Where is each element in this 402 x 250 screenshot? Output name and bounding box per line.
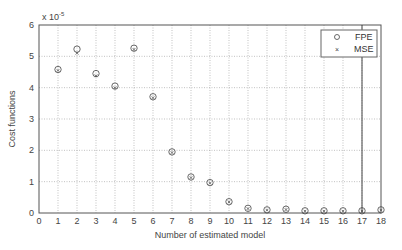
legend: FPE × MSE: [321, 30, 377, 57]
x-axis-title: Number of estimated model: [155, 230, 266, 240]
y-tick-label: 2: [29, 145, 34, 155]
x-tick-label: 15: [319, 216, 329, 226]
data-points: [55, 45, 384, 214]
fpe-point: [169, 149, 175, 155]
fpe-point: [55, 66, 61, 72]
mse-point: [171, 151, 174, 154]
x-tick-label: 12: [262, 216, 272, 226]
y-scale-label: x 10-5: [42, 11, 65, 22]
x-tick-label: 3: [93, 216, 98, 226]
fpe-point: [188, 174, 194, 180]
y-tick-label: 3: [29, 114, 34, 124]
x-tick-label: 4: [112, 216, 117, 226]
x-tick-label: 13: [281, 216, 291, 226]
cost-function-chart: 0123456789101112131415161718 0123456 x 1…: [0, 0, 402, 250]
mse-point: [209, 182, 212, 185]
mse-marker-icon: ×: [335, 46, 339, 53]
legend-fpe-label: FPE: [355, 32, 373, 42]
x-tick-label: 0: [36, 216, 41, 226]
x-tick-label: 7: [169, 216, 174, 226]
x-tick-label: 5: [131, 216, 136, 226]
x-tick-label: 17: [357, 216, 367, 226]
x-axis-ticks: 0123456789101112131415161718: [36, 216, 386, 226]
fpe-point: [150, 94, 156, 100]
mse-point: [152, 96, 155, 99]
y-tick-label: 0: [29, 208, 34, 218]
x-tick-label: 16: [338, 216, 348, 226]
mse-point: [190, 176, 193, 179]
x-tick-label: 18: [376, 216, 386, 226]
y-axis-ticks: 0123456: [29, 20, 34, 218]
fpe-point: [74, 46, 80, 52]
x-tick-label: 9: [207, 216, 212, 226]
y-tick-label: 6: [29, 20, 34, 30]
y-axis-title: Cost functions: [7, 90, 17, 148]
x-tick-label: 14: [300, 216, 310, 226]
x-tick-label: 6: [150, 216, 155, 226]
y-tick-label: 5: [29, 51, 34, 61]
y-tick-label: 4: [29, 83, 34, 93]
x-tick-label: 10: [224, 216, 234, 226]
y-tick-label: 1: [29, 177, 34, 187]
x-tick-label: 2: [74, 216, 79, 226]
x-tick-label: 8: [188, 216, 193, 226]
legend-mse-label: MSE: [354, 44, 374, 54]
x-tick-label: 11: [243, 216, 252, 226]
mse-point: [266, 209, 269, 212]
x-tick-label: 1: [55, 216, 60, 226]
mse-point: [57, 69, 60, 72]
